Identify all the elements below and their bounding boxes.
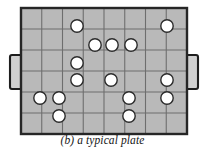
plate-hole [123, 110, 135, 122]
plate-hole [161, 92, 173, 104]
plate-hole [89, 39, 101, 51]
figure-container: (b) a typical plate [0, 0, 205, 157]
plate-hole [53, 92, 65, 104]
plate-hole [125, 39, 137, 51]
plate-hole [106, 39, 118, 51]
plate-hole [161, 20, 173, 32]
plate-hole [71, 20, 83, 32]
plate-hole [123, 92, 135, 104]
plate-hole [53, 110, 65, 122]
plate-hole [161, 74, 173, 86]
figure-caption: (b) a typical plate [0, 134, 205, 146]
plate-hole [71, 74, 83, 86]
plate-hole [34, 92, 46, 104]
plate-diagram [0, 0, 205, 136]
plate-hole [71, 57, 83, 69]
plate-hole [105, 74, 117, 86]
